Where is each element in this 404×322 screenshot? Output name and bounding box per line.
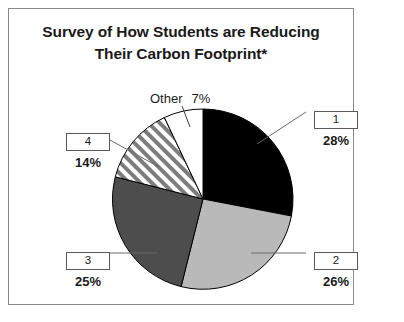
callout-label-slice-4: 4 (85, 135, 91, 147)
callout-label-slice-other: Other7% (150, 91, 210, 106)
callout-percent-slice-2: 26% (308, 274, 364, 289)
callout-box-slice-3[interactable]: 3 (66, 252, 110, 270)
callout-percent-slice-4: 14% (60, 155, 116, 170)
other-name-text: Other (150, 91, 183, 106)
pie-slice-1 (203, 109, 293, 216)
callout-percent-slice-1: 28% (308, 133, 364, 148)
callout-box-slice-1[interactable]: 1 (314, 111, 358, 129)
callout-label-slice-1: 1 (333, 113, 339, 125)
callout-box-slice-2[interactable]: 2 (314, 252, 358, 270)
other-percent-text: 7% (192, 91, 211, 106)
callout-box-slice-4[interactable]: 4 (66, 133, 110, 151)
callout-label-slice-2: 2 (333, 254, 339, 266)
leader-line-slice-1 (257, 112, 306, 144)
chart-frame: Survey of How Students are Reducing Thei… (8, 8, 354, 305)
callout-percent-slice-3: 25% (60, 274, 116, 289)
callout-label-slice-3: 3 (85, 254, 91, 266)
